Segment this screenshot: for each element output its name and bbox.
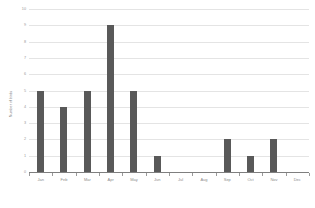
x-axis-tick <box>122 173 123 176</box>
x-axis-tick <box>52 173 53 176</box>
bars-layer <box>29 9 309 172</box>
x-axis-category-label: Apr <box>99 177 122 189</box>
bar-slot <box>286 9 309 172</box>
y-axis-title-label: Number of birds <box>10 91 14 117</box>
x-axis-tick <box>29 173 30 176</box>
bar-slot <box>146 9 169 172</box>
x-axis-tick <box>262 173 263 176</box>
bar-slot <box>52 9 75 172</box>
bar-slot <box>169 9 192 172</box>
bar-slot <box>122 9 145 172</box>
bar-apr <box>107 25 114 172</box>
bar-jan <box>37 91 44 173</box>
bar-sep <box>224 139 231 172</box>
x-axis-tick <box>309 173 310 176</box>
y-axis-tick-label: 8 <box>14 40 26 44</box>
y-axis-tick-label: 10 <box>14 7 26 11</box>
bar-slot <box>262 9 285 172</box>
y-axis-tick-label: 4 <box>14 105 26 109</box>
x-axis-category-label: Oct <box>239 177 262 189</box>
x-axis-category-label: May <box>122 177 145 189</box>
x-axis-tick <box>99 173 100 176</box>
x-axis-tick <box>169 173 170 176</box>
bar-mar <box>84 91 91 173</box>
y-axis-tick-label: 3 <box>14 121 26 125</box>
y-axis-tick-label: 6 <box>14 72 26 76</box>
x-axis-category-label: Mar <box>76 177 99 189</box>
bar-feb <box>60 107 67 172</box>
x-axis-category-label: Sep <box>216 177 239 189</box>
y-axis-tick-label: 7 <box>14 56 26 60</box>
y-axis-tick-label: 0 <box>14 170 26 174</box>
bar-slot <box>239 9 262 172</box>
x-axis-category-labels: JanFebMarAprMayJunJulAugSepOctNovDec <box>29 177 309 189</box>
y-axis-tick-label: 9 <box>14 23 26 27</box>
x-axis-category-label: Jan <box>29 177 52 189</box>
x-axis-tick <box>192 173 193 176</box>
x-axis-tick <box>146 173 147 176</box>
bar-chart: Number of birds 012345678910 JanFebMarAp… <box>0 0 315 208</box>
bar-may <box>130 91 137 173</box>
y-axis-tick-label: 5 <box>14 89 26 93</box>
bar-oct <box>247 156 254 172</box>
x-axis-category-label: Aug <box>192 177 215 189</box>
y-axis-tick-label: 2 <box>14 137 26 141</box>
bar-slot <box>192 9 215 172</box>
x-axis-category-label: Nov <box>262 177 285 189</box>
bar-slot <box>216 9 239 172</box>
x-axis-ticks <box>29 173 309 176</box>
bar-slot <box>99 9 122 172</box>
bar-slot <box>76 9 99 172</box>
x-axis-category-label: Jul <box>169 177 192 189</box>
y-axis-tick-label: 1 <box>14 154 26 158</box>
y-axis-tick-labels: 012345678910 <box>14 9 26 172</box>
x-axis-category-label: Feb <box>52 177 75 189</box>
bar-nov <box>270 139 277 172</box>
x-axis-tick <box>286 173 287 176</box>
x-axis-tick <box>239 173 240 176</box>
bar-slot <box>29 9 52 172</box>
x-axis-category-label: Jun <box>146 177 169 189</box>
plot-area <box>29 9 309 172</box>
x-axis-category-label: Dec <box>286 177 309 189</box>
x-axis-tick <box>76 173 77 176</box>
x-axis-tick <box>216 173 217 176</box>
bar-jun <box>154 156 161 172</box>
